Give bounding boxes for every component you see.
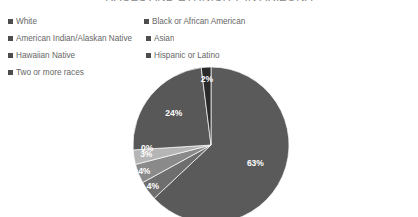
pie-slice-label: 4%: [138, 166, 151, 176]
pie-slice-label: 2%: [201, 74, 214, 84]
pie-chart-figure: RACES AND ETHNICITY IN ARIZONA White Bla…: [0, 0, 418, 217]
pie-slice-label: 4%: [147, 181, 160, 191]
pie-slice-label: 63%: [247, 158, 264, 168]
pie-slice-label: 0%: [141, 143, 154, 153]
pie-plot-area: 63%4%4%3%0%24%2%: [0, 0, 418, 217]
pie-svg: 63%4%4%3%0%24%2%: [0, 0, 418, 217]
pie-slice-label: 24%: [165, 108, 182, 118]
